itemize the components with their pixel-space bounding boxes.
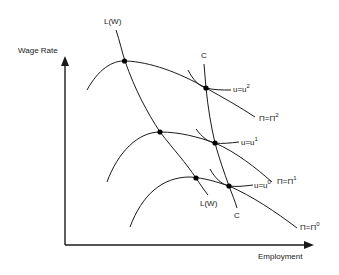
axes: Wage Rate Employment: [18, 46, 314, 261]
contract-curve: C C: [201, 51, 240, 220]
isoprofit-label-1: Π=Π1: [277, 175, 297, 186]
labour-demand-point-0: [193, 175, 198, 180]
indifference-curve-1: [196, 129, 239, 143]
contract-point-1: [212, 140, 217, 145]
labour-demand-label-bottom: L(W): [200, 199, 218, 208]
indifference-label-2: u=u2: [233, 83, 251, 94]
x-axis-label: Employment: [258, 252, 303, 261]
indifference-curve-2: [188, 70, 231, 90]
y-axis-label: Wage Rate: [18, 46, 58, 55]
isoprofit-label-0: Π=Π0: [300, 221, 320, 232]
indifference-curves: u=u2 u=u1 u=u0: [188, 70, 272, 190]
labour-demand-point-2: [122, 58, 127, 63]
y-axis-arrowhead-icon: [61, 56, 69, 66]
isoprofit-label-2: Π=Π2: [259, 112, 279, 123]
labour-demand-point-1: [157, 129, 162, 134]
isoprofit-curve-2: [87, 61, 255, 117]
indifference-curve-0: [210, 169, 253, 186]
intersection-points: [122, 58, 232, 188]
labour-demand-label-top: L(W): [104, 17, 122, 26]
x-axis-arrowhead-icon: [304, 241, 314, 249]
indifference-label-0: u=u0: [254, 179, 272, 190]
contract-curve-label-bottom: C: [234, 211, 240, 220]
labour-demand-line: [116, 30, 208, 195]
efficient-bargaining-diagram: Wage Rate Employment Π=Π2 Π=Π1 Π=Π0 L(W)…: [0, 0, 339, 275]
contract-point-2: [203, 85, 208, 90]
contract-curve-label-top: C: [201, 51, 207, 60]
contract-point-0: [226, 183, 231, 188]
labour-demand-curve: L(W) L(W): [104, 17, 218, 208]
indifference-label-1: u=u1: [241, 136, 259, 147]
